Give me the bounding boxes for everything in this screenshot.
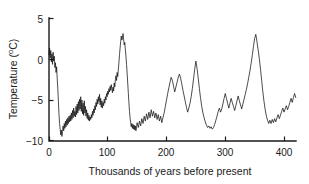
x-tick-label-300: 300: [217, 147, 234, 158]
x-axis-title: Thousands of years before present: [89, 165, 252, 177]
y-axis-title-prefix: Temperature (: [7, 53, 19, 119]
x-tick-label-200: 200: [158, 147, 175, 158]
y-tick-label-neg5: −5: [32, 95, 44, 106]
chart-figure: Temperature (oC) 5 0 −5 −10 0 100 200 30…: [0, 0, 309, 184]
temperature-data-line: [49, 34, 296, 137]
y-axis-title: Temperature (oC): [6, 39, 20, 120]
x-tick-label-400: 400: [276, 147, 293, 158]
y-tick-label-neg10: −10: [26, 136, 43, 147]
x-tick-label-100: 100: [99, 147, 116, 158]
y-axis-title-suffix: C): [7, 39, 19, 50]
axis-spines: [49, 18, 296, 141]
x-tick-label-0: 0: [46, 147, 52, 158]
vostok-temperature-line-chart: Temperature (oC) 5 0 −5 −10 0 100 200 30…: [0, 0, 309, 184]
y-tick-label-0: 0: [37, 55, 43, 66]
y-tick-label-5: 5: [37, 14, 43, 25]
